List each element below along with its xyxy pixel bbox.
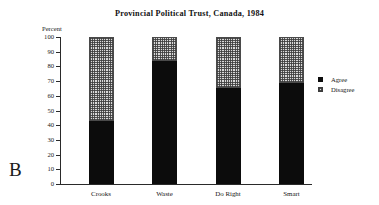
y-axis-tick-label: 30 — [47, 135, 54, 144]
bar-segment-agree[interactable] — [89, 121, 114, 184]
bar-segment-agree[interactable] — [216, 88, 241, 184]
y-axis-tick-mark — [56, 81, 60, 82]
y-axis-tick-label: 50 — [47, 106, 54, 115]
legend-item-disagree[interactable]: Disagree — [318, 85, 378, 94]
y-axis-tick-mark — [56, 155, 60, 156]
legend-label: Agree — [331, 76, 347, 84]
bar-segment-disagree[interactable] — [89, 37, 114, 121]
panel-letter: B — [9, 160, 22, 179]
legend-swatch-icon — [318, 77, 323, 82]
y-axis-tick-mark — [56, 52, 60, 53]
bar-stack[interactable] — [279, 37, 304, 184]
y-axis-tick-mark — [56, 184, 60, 185]
y-axis-line — [60, 37, 61, 184]
bar-segment-disagree[interactable] — [216, 37, 241, 88]
legend-label: Disagree — [331, 86, 354, 94]
y-axis-tick-mark — [56, 66, 60, 67]
bar-segment-disagree[interactable] — [279, 37, 304, 83]
y-axis-tick-label: 100 — [44, 32, 54, 41]
y-axis-tick-label: 20 — [47, 150, 54, 159]
bar-stack[interactable] — [89, 37, 114, 184]
bar-segment-disagree[interactable] — [152, 37, 177, 61]
chart-legend: AgreeDisagree — [318, 75, 378, 95]
bar-stack[interactable] — [152, 37, 177, 184]
y-axis-tick-label: 60 — [47, 91, 54, 100]
y-axis-tick-label: 90 — [47, 47, 54, 56]
plot-area: Percent 1009080706050403020100 CrooksWas… — [60, 37, 312, 184]
y-axis-tick-label: 40 — [47, 120, 54, 129]
y-axis-tick-mark — [56, 140, 60, 141]
y-axis-tick-label: 80 — [47, 61, 54, 70]
legend-item-agree[interactable]: Agree — [318, 75, 378, 84]
chart-title: Provincial Political Trust, Canada, 1984 — [0, 9, 379, 18]
y-axis-tick-mark — [56, 96, 60, 97]
y-axis-tick-mark — [56, 37, 60, 38]
y-axis-tick-label: 70 — [47, 76, 54, 85]
x-axis-category-label: Smart — [252, 189, 332, 198]
y-axis-tick-mark — [56, 125, 60, 126]
legend-swatch-icon — [318, 87, 323, 92]
x-axis-line — [60, 184, 312, 185]
y-axis-tick-mark — [56, 111, 60, 112]
figure-panel: B Provincial Political Trust, Canada, 19… — [0, 0, 379, 205]
y-axis-tick-label: 0 — [51, 179, 54, 188]
bar-segment-agree[interactable] — [279, 83, 304, 184]
y-axis-tick-mark — [56, 169, 60, 170]
y-axis-tick-label: 10 — [47, 164, 54, 173]
bar-segment-agree[interactable] — [152, 61, 177, 184]
bar-stack[interactable] — [216, 37, 241, 184]
